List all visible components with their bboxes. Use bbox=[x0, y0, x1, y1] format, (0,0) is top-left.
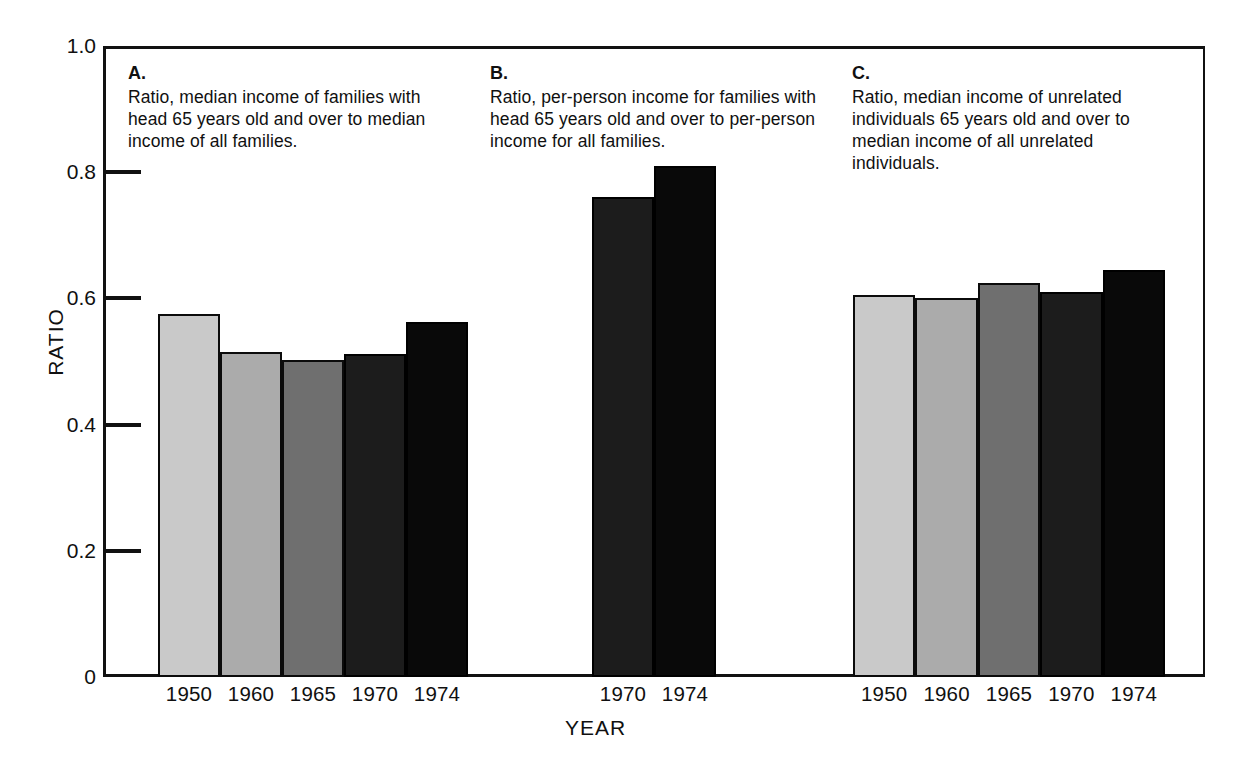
bar-a-1965 bbox=[282, 360, 344, 677]
x-tick-label-a-1970: 1970 bbox=[344, 682, 406, 706]
bar-c-1974 bbox=[1103, 270, 1165, 677]
x-tick-label-c-1965: 1965 bbox=[978, 682, 1040, 706]
x-tick-label-c-1960: 1960 bbox=[915, 682, 977, 706]
bar-c-1960 bbox=[915, 298, 977, 677]
x-tick-label-a-1965: 1965 bbox=[282, 682, 344, 706]
x-tick-label-a-1974: 1974 bbox=[406, 682, 468, 706]
x-tick-label-a-1960: 1960 bbox=[220, 682, 282, 706]
bar-a-1950 bbox=[158, 314, 220, 677]
bar-a-1970 bbox=[344, 354, 406, 677]
bar-c-1965 bbox=[978, 283, 1040, 677]
bar-c-1970 bbox=[1040, 292, 1102, 677]
x-tick-label-b-1974: 1974 bbox=[654, 682, 716, 706]
bar-c-1950 bbox=[853, 295, 915, 677]
x-tick-label-c-1970: 1970 bbox=[1040, 682, 1102, 706]
x-tick-label-a-1950: 1950 bbox=[158, 682, 220, 706]
bar-b-1970 bbox=[592, 197, 654, 677]
bar-a-1960 bbox=[220, 352, 282, 677]
bars-layer: 1950196019651970197419701974195019601965… bbox=[0, 0, 1250, 772]
x-tick-label-b-1970: 1970 bbox=[592, 682, 654, 706]
bar-b-1974 bbox=[654, 166, 716, 677]
figure-root: 1.00.80.60.40.20 RATIO YEAR A. Ratio, me… bbox=[0, 0, 1250, 772]
x-tick-label-c-1950: 1950 bbox=[853, 682, 915, 706]
x-tick-label-c-1974: 1974 bbox=[1103, 682, 1165, 706]
bar-a-1974 bbox=[406, 322, 468, 677]
